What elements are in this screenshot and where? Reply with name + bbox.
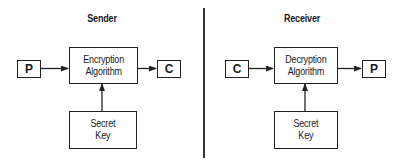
- decryption-algorithm-line1: Decryption: [285, 54, 326, 66]
- receiver-secret-key-box: Secret Key: [274, 111, 338, 149]
- sender-ciphertext-box: C: [157, 60, 181, 78]
- receiver-ciphertext-box: C: [225, 60, 249, 78]
- receiver-key-line1: Secret: [294, 118, 319, 130]
- decryption-algorithm-line2: Algorithm: [285, 66, 326, 78]
- sender-plaintext-label: P: [25, 62, 33, 76]
- encryption-algorithm-box: Encryption Algorithm: [69, 47, 138, 84]
- receiver-plaintext-box: P: [362, 60, 386, 78]
- sender-key-line2: Key: [91, 130, 116, 142]
- receiver-title: Receiver: [248, 13, 356, 24]
- encryption-algorithm-line1: Encryption: [83, 54, 124, 66]
- sender-title: Sender: [48, 13, 156, 24]
- receiver-plaintext-label: P: [370, 62, 378, 76]
- sender-ciphertext-label: C: [165, 62, 174, 76]
- decryption-algorithm-box: Decryption Algorithm: [274, 47, 338, 84]
- receiver-ciphertext-label: C: [233, 62, 242, 76]
- encryption-algorithm-line2: Algorithm: [83, 66, 124, 78]
- section-divider: [203, 8, 205, 158]
- sender-secret-key-box: Secret Key: [69, 111, 137, 149]
- receiver-key-line2: Key: [294, 130, 319, 142]
- sender-key-line1: Secret: [91, 118, 116, 130]
- sender-plaintext-box: P: [17, 60, 41, 78]
